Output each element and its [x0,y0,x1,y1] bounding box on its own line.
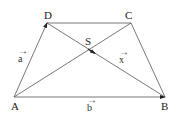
arrow-x-marker [88,49,95,53]
point-label-c: C [125,9,132,21]
vector-label-x: x [119,54,124,65]
diagonal-db [47,23,165,97]
trapezoid-diagram: D C A B S → a → x → b [0,0,179,120]
point-label-d: D [44,9,52,21]
point-label-s: S [85,35,91,47]
point-label-a: A [11,100,19,112]
vector-label-b: b [87,102,92,113]
vector-label-a: a [18,53,23,64]
diagonal-ac [14,23,131,97]
point-label-b: B [161,100,168,112]
